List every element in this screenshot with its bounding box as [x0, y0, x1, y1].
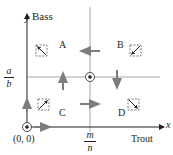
region-B-direction-icon [130, 45, 141, 56]
region-A-direction-icon [36, 45, 47, 56]
origin-label: (0, 0) [13, 134, 35, 144]
region-label-A: A [59, 40, 66, 50]
region-label-C: C [59, 108, 66, 118]
y-equilibrium-fraction: a b [4, 66, 14, 89]
interior-equilibrium-point [86, 73, 95, 82]
axis-flow-arrows [27, 99, 50, 127]
origin-equilibrium-point [23, 123, 32, 132]
x-fraction-numerator: m [86, 130, 93, 140]
y-axis-variable: y [25, 13, 29, 23]
y-fraction-numerator: a [7, 66, 12, 76]
region-label-B: B [117, 40, 124, 50]
axes [27, 14, 164, 127]
x-fraction-denominator: n [88, 143, 93, 153]
region-C-direction-icon [38, 99, 49, 110]
x-axis-label: Trout [131, 134, 153, 144]
region-label-D: D [118, 108, 125, 118]
region-D-direction-icon [128, 99, 139, 110]
x-equilibrium-fraction: m n [84, 130, 96, 153]
nullclines [27, 7, 160, 132]
y-axis-label: Bass [32, 11, 53, 22]
x-axis-variable: x [166, 120, 170, 130]
y-fraction-denominator: b [7, 79, 12, 89]
